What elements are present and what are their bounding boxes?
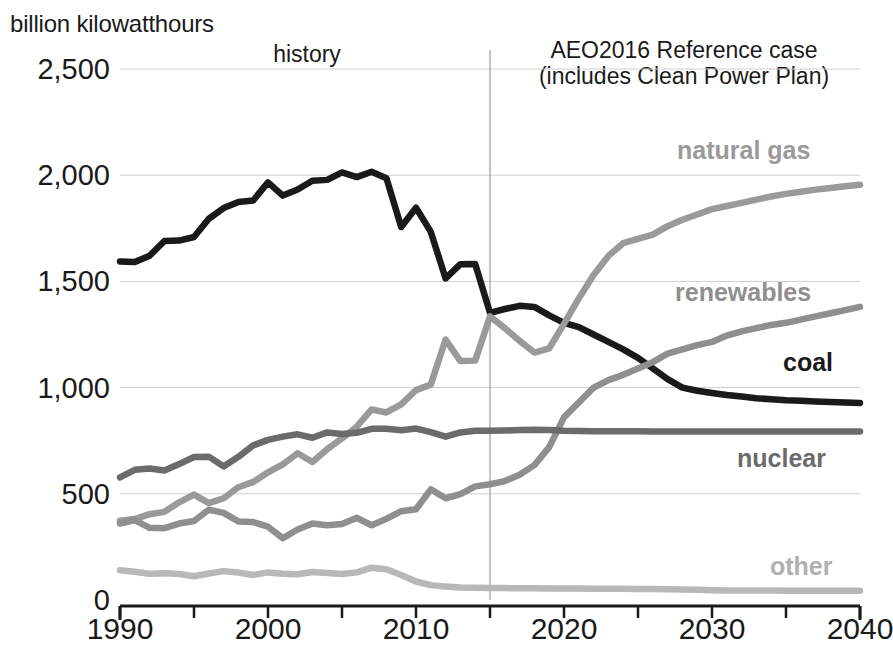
y-tick-label: 1,500 — [2, 265, 110, 298]
x-tick-label: 1990 — [87, 612, 154, 646]
y-tick-label: 500 — [2, 477, 110, 510]
y-tick-label: 2,000 — [2, 159, 110, 192]
x-tick-label: 2040 — [827, 612, 893, 646]
x-tick-label: 2000 — [235, 612, 302, 646]
series-label-nuclear: nuclear — [737, 444, 826, 473]
x-tick-label: 2030 — [679, 612, 746, 646]
y-tick-label: 1,000 — [2, 371, 110, 404]
x-tick-label: 2010 — [383, 612, 450, 646]
y-tick-label: 2,500 — [2, 53, 110, 86]
x-axis-tick-labels: 199020002010202020302040 — [0, 612, 892, 653]
series-label-coal: coal — [783, 348, 833, 377]
series-label-other: other — [770, 552, 833, 581]
series-label-natural-gas: natural gas — [677, 136, 810, 165]
y-axis-tick-labels: 05001,0001,5002,0002,500 — [0, 0, 110, 653]
x-tick-label: 2020 — [531, 612, 598, 646]
series-label-renewables: renewables — [675, 278, 811, 307]
